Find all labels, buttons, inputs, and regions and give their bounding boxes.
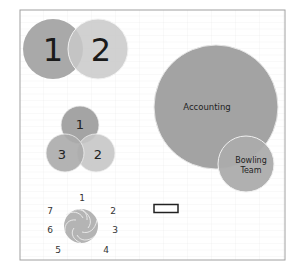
venn3-label-1: 1	[76, 117, 84, 132]
venn3-label-2: 2	[94, 147, 102, 162]
radial-label-5: 5	[55, 245, 61, 255]
selected-cell-box[interactable]	[154, 205, 178, 213]
venn3-label-3: 3	[58, 147, 66, 162]
radial-label-1: 1	[79, 193, 85, 203]
radial-label-7: 7	[47, 206, 53, 216]
radial-label-4: 4	[103, 245, 109, 255]
bowling-team-label-line1: Bowling	[235, 156, 267, 165]
radial-label-2: 2	[110, 206, 116, 216]
radial-label-6: 6	[47, 225, 53, 235]
venn-circle-2-label: 2	[91, 31, 111, 69]
accounting-label: Accounting	[183, 102, 230, 112]
venn-circle-1-label: 1	[43, 31, 63, 69]
diagram-canvas: 1 2 1 2 3 Accounting Bowling Team 1 2 3	[0, 0, 298, 274]
radial-label-3: 3	[112, 225, 118, 235]
bowling-team-label-line2: Team	[239, 166, 261, 175]
